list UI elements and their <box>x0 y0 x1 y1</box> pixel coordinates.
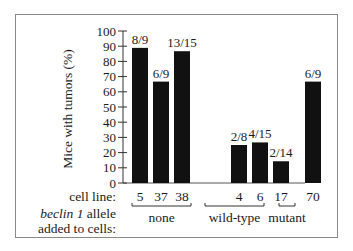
bar-label: 13/15 <box>167 35 197 50</box>
bar-label: 6/9 <box>153 66 170 81</box>
y-tick-label: 90 <box>103 39 116 54</box>
bar-17 <box>273 161 289 183</box>
bar-6 <box>252 142 268 183</box>
bar-chart: 0102030405060708090100Mice with tumors (… <box>0 0 353 251</box>
cell-line-value: 70 <box>306 189 320 204</box>
cell-line-value: 37 <box>154 189 168 204</box>
group-label: wild-type <box>209 210 261 225</box>
y-tick-label: 50 <box>103 100 116 115</box>
y-tick-label: 20 <box>103 145 116 160</box>
group-label: mutant <box>268 210 306 225</box>
bar-70 <box>305 82 321 183</box>
y-tick-label: 60 <box>103 84 116 99</box>
bar-label: 2/8 <box>231 129 248 144</box>
group-bracket <box>205 203 264 206</box>
cell-line-value: 6 <box>257 189 264 204</box>
allele-label-line2: added to cells: <box>38 221 116 236</box>
cell-line-label: cell line: <box>69 189 116 204</box>
bar-37 <box>153 82 169 183</box>
cell-line-value: 5 <box>137 189 144 204</box>
bar-label: 8/9 <box>132 32 149 47</box>
y-axis-label: Mice with tumors (%) <box>60 49 75 169</box>
cell-line-value: 4 <box>236 189 243 204</box>
y-tick-label: 80 <box>103 54 116 69</box>
cell-line-value: 17 <box>274 189 288 204</box>
allele-label-line1: beclin 1 allele <box>40 206 116 221</box>
y-tick-label: 70 <box>103 69 116 84</box>
y-tick-label: 40 <box>103 115 116 130</box>
group-label: none <box>148 210 174 225</box>
bar-label: 6/9 <box>305 66 322 81</box>
bar-5 <box>132 48 148 183</box>
bar-4 <box>231 145 247 183</box>
bar-38 <box>174 51 190 183</box>
y-tick-label: 30 <box>103 130 116 145</box>
bar-label: 4/15 <box>248 126 271 141</box>
y-tick-label: 10 <box>103 160 116 175</box>
y-tick-label: 100 <box>97 24 117 39</box>
bar-label: 2/14 <box>269 145 293 160</box>
cell-line-value: 38 <box>175 189 189 204</box>
